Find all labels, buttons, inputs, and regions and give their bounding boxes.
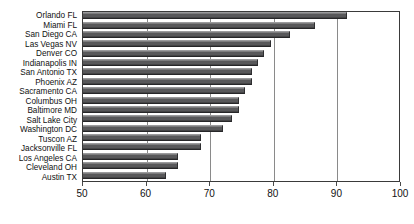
bar-row bbox=[83, 134, 399, 143]
category-label: Columbus OH bbox=[0, 97, 80, 106]
bar bbox=[83, 12, 347, 19]
bar-row bbox=[83, 40, 399, 49]
bar-row bbox=[83, 97, 399, 106]
axis-tick-label: 60 bbox=[140, 188, 151, 199]
bar-row bbox=[83, 87, 399, 96]
bar bbox=[83, 106, 239, 113]
bar-row bbox=[83, 50, 399, 59]
axis-tick-mark bbox=[209, 182, 210, 186]
bar-chart: Orlando FLMiami FLSan Diego CALas Vegas … bbox=[0, 0, 414, 224]
bar bbox=[83, 134, 201, 141]
category-label: Tuscon AZ bbox=[0, 135, 80, 144]
axis-tick-label: 90 bbox=[331, 188, 342, 199]
bar bbox=[83, 78, 252, 85]
bar bbox=[83, 87, 245, 94]
bar-row bbox=[83, 22, 399, 31]
bar-row bbox=[83, 125, 399, 134]
bar-row bbox=[83, 115, 399, 124]
bar-row bbox=[83, 78, 399, 87]
category-label: Salt Lake City bbox=[0, 116, 80, 125]
axis-tick-mark bbox=[400, 182, 401, 186]
bar-row bbox=[83, 59, 399, 68]
bar-row bbox=[83, 162, 399, 171]
bar bbox=[83, 97, 239, 104]
axis-tick-mark bbox=[82, 182, 83, 186]
axis-tick-label: 80 bbox=[267, 188, 278, 199]
category-label: Indianapolis IN bbox=[0, 59, 80, 68]
category-label: Phoenix AZ bbox=[0, 78, 80, 87]
bar bbox=[83, 172, 166, 179]
bar-row bbox=[83, 31, 399, 40]
value-axis: 5060708090100 bbox=[82, 182, 400, 212]
category-label: Denver CO bbox=[0, 49, 80, 58]
bar-row bbox=[83, 106, 399, 115]
category-label: Austin TX bbox=[0, 173, 80, 182]
category-label: Jacksonville FL bbox=[0, 144, 80, 153]
axis-tick-label: 100 bbox=[392, 188, 409, 199]
bar bbox=[83, 143, 201, 150]
bar-row bbox=[83, 143, 399, 152]
chart-title bbox=[0, 0, 414, 9]
bar bbox=[83, 162, 178, 169]
bar-row bbox=[83, 12, 399, 21]
category-label: San Antonio TX bbox=[0, 68, 80, 77]
bar bbox=[83, 50, 264, 57]
category-label: Washington DC bbox=[0, 125, 80, 134]
bar bbox=[83, 68, 252, 75]
bar-row bbox=[83, 172, 399, 181]
category-axis-labels: Orlando FLMiami FLSan Diego CALas Vegas … bbox=[0, 11, 80, 182]
bar bbox=[83, 22, 315, 29]
bar bbox=[83, 153, 178, 160]
category-label: San Diego CA bbox=[0, 30, 80, 39]
category-label: Las Vegas NV bbox=[0, 40, 80, 49]
category-label: Los Angeles CA bbox=[0, 154, 80, 163]
category-label: Miami FL bbox=[0, 21, 80, 30]
axis-tick-mark bbox=[146, 182, 147, 186]
bar bbox=[83, 31, 290, 38]
category-label: Baltimore MD bbox=[0, 106, 80, 115]
axis-tick-mark bbox=[336, 182, 337, 186]
bar-row bbox=[83, 153, 399, 162]
plot-area bbox=[82, 11, 400, 182]
bar bbox=[83, 115, 232, 122]
axis-tick-mark bbox=[273, 182, 274, 186]
bar bbox=[83, 125, 223, 132]
axis-tick-label: 70 bbox=[204, 188, 215, 199]
bar bbox=[83, 40, 271, 47]
bar bbox=[83, 59, 258, 66]
bar-series bbox=[83, 12, 399, 181]
axis-tick-label: 50 bbox=[76, 188, 87, 199]
category-label: Orlando FL bbox=[0, 11, 80, 20]
bar-row bbox=[83, 68, 399, 77]
category-label: Cleveland OH bbox=[0, 163, 80, 172]
category-label: Sacramento CA bbox=[0, 87, 80, 96]
